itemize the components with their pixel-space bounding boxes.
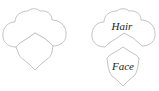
hair-label: Hair bbox=[111, 20, 134, 32]
face-label: Face bbox=[111, 60, 134, 72]
separated-head-figure: Hair Face bbox=[92, 9, 155, 86]
diagram-canvas: Hair Face bbox=[0, 0, 159, 91]
combined-head-figure bbox=[3, 9, 66, 70]
